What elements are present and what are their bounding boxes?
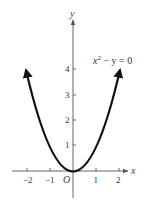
origin-label: O xyxy=(63,174,70,185)
y-tick-label: 3 xyxy=(65,90,70,100)
y-axis-label: y xyxy=(69,8,75,19)
x-tick-label: 1 xyxy=(94,175,99,185)
x-tick-label: −2 xyxy=(23,175,33,185)
x-tick-label: −1 xyxy=(45,175,55,185)
x-axis-label: x xyxy=(130,165,136,176)
y-tick-label: 4 xyxy=(65,64,70,74)
parabola-plot: −2 −1 1 2 O 1 2 3 4 x y x2 − y = 0 xyxy=(0,0,147,208)
y-tick-label: 1 xyxy=(65,140,70,150)
x-tick-label: 2 xyxy=(116,175,121,185)
y-tick-label: 2 xyxy=(65,115,70,125)
equation-label: x2 − y = 0 xyxy=(92,54,132,66)
